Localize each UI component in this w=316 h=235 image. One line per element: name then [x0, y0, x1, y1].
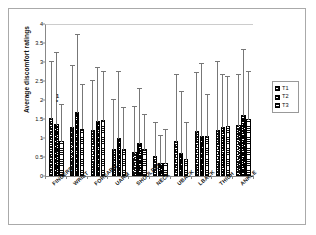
error-bar	[243, 49, 244, 116]
y-tick-mark	[42, 24, 45, 25]
legend-label: T1	[282, 86, 289, 92]
x-axis-labels: FINGERSWRISTFOREARMUARMSHOULDERNECKUBACK…	[45, 178, 253, 233]
error-bar	[134, 106, 135, 154]
error-bar-cap	[236, 74, 241, 75]
error-bar	[155, 122, 156, 158]
error-bar-cap	[116, 71, 121, 72]
bar-t1-thigh	[216, 130, 220, 176]
y-tick-mark	[42, 138, 45, 139]
x-tick-mark	[211, 176, 212, 179]
error-bar-cap	[90, 80, 95, 81]
error-bar	[176, 74, 177, 142]
bar-t2-fingers	[54, 124, 58, 176]
y-tick-mark	[42, 62, 45, 63]
bar-t2-shoulder	[137, 143, 141, 176]
x-tick-mark	[45, 176, 46, 179]
bar-t1-ankle	[236, 125, 240, 176]
x-tick-mark	[128, 176, 129, 179]
legend-item-t3[interactable]: T3	[275, 102, 296, 110]
legend-item-t2[interactable]: T2	[275, 93, 296, 101]
error-bar-cap	[80, 84, 85, 85]
bar-t1-lback	[195, 131, 199, 176]
error-bar	[61, 104, 62, 143]
bar-t1-forearm	[91, 130, 95, 176]
error-bar-cap	[184, 122, 189, 123]
error-bar	[118, 71, 119, 139]
bar-t1-uback	[174, 141, 178, 176]
error-bar	[103, 71, 104, 121]
error-bar	[160, 135, 161, 164]
x-tick-mark	[232, 176, 233, 179]
y-tick-label: 0	[27, 173, 43, 179]
x-tick-mark	[66, 176, 67, 179]
y-tick-mark	[42, 100, 45, 101]
bar-t1-shoulder	[132, 152, 136, 176]
bar-t2-thigh	[221, 127, 225, 176]
error-bar-cap	[132, 106, 137, 107]
chart-figure: Average discomfort ratings 00.511.522.53…	[0, 0, 316, 235]
error-bar-cap	[70, 65, 75, 66]
error-bar-cap	[241, 49, 246, 50]
error-bar	[227, 76, 228, 127]
error-bar-cap	[59, 104, 64, 105]
bar-t2-wrist	[75, 112, 79, 176]
error-bar	[51, 61, 52, 119]
bar-group	[236, 25, 251, 176]
plot-inner: 1*	[46, 25, 253, 176]
error-bar-cap	[246, 71, 251, 72]
bar-group	[91, 25, 106, 176]
error-bar	[207, 94, 208, 137]
bar-t2-ankle	[241, 115, 245, 176]
bar-t2-forearm	[96, 121, 100, 176]
bar-t2-uarm	[117, 138, 121, 176]
error-bar	[181, 91, 182, 154]
error-bar-cap	[215, 61, 220, 62]
y-tick-label: 3.5	[27, 40, 43, 46]
y-tick-label: 1.5	[27, 116, 43, 122]
chart-annotation: *	[56, 99, 58, 105]
bar-t3-forearm	[101, 120, 105, 176]
error-bar-cap	[121, 107, 126, 108]
legend-swatch-t3	[275, 103, 280, 108]
legend-swatch-t2	[275, 95, 280, 100]
error-bar	[196, 72, 197, 132]
y-tick-label: 1	[27, 135, 43, 141]
error-bar-cap	[49, 61, 54, 62]
y-tick-label: 4	[27, 21, 43, 27]
legend-swatch-t1	[275, 86, 280, 91]
error-bar-cap	[95, 67, 100, 68]
error-bar-cap	[225, 76, 230, 77]
error-bar-cap	[153, 122, 158, 123]
error-bar	[238, 74, 239, 126]
error-bar	[123, 107, 124, 151]
bar-t2-uback	[179, 153, 183, 176]
error-bar-cap	[111, 99, 116, 100]
error-bar	[217, 61, 218, 131]
bar-t3-ankle	[246, 119, 250, 176]
bar-group	[216, 25, 231, 176]
y-axis-ticks: 00.511.522.533.54	[25, 0, 43, 235]
bar-t3-wrist	[80, 129, 84, 177]
y-tick-mark	[42, 119, 45, 120]
y-tick-label: 2	[27, 97, 43, 103]
error-bar	[144, 114, 145, 150]
error-bar-cap	[54, 52, 59, 53]
error-bar	[165, 129, 166, 164]
legend-item-t1[interactable]: T1	[275, 85, 296, 93]
x-tick-mark	[191, 176, 192, 179]
error-bar	[82, 84, 83, 130]
y-tick-label: 3	[27, 59, 43, 65]
error-bar-cap	[75, 34, 80, 35]
x-tick-mark	[87, 176, 88, 179]
y-tick-mark	[42, 81, 45, 82]
legend-label: T2	[282, 94, 289, 100]
legend-label: T3	[282, 103, 289, 109]
y-tick-mark	[42, 157, 45, 158]
error-bar-cap	[194, 72, 199, 73]
error-bar-cap	[174, 74, 179, 75]
error-bar-cap	[101, 71, 106, 72]
bar-group	[153, 25, 168, 176]
bar-group	[112, 25, 127, 176]
bar-t2-lback	[200, 136, 204, 176]
chart-legend: T1T2T3	[272, 81, 299, 113]
